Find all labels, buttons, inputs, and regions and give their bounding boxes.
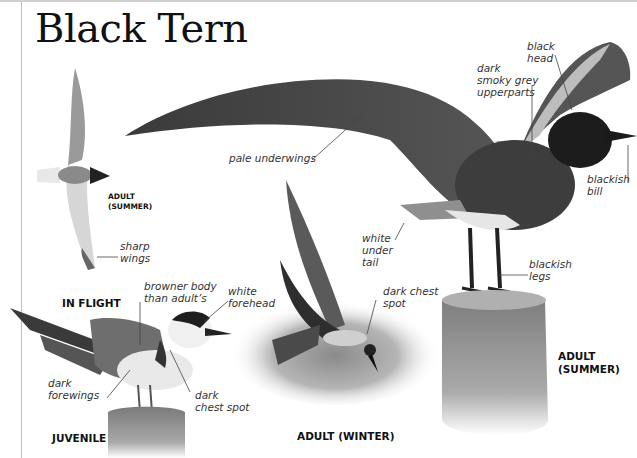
annotation-line: upperparts	[477, 86, 538, 98]
annotation-dark-forewings: dark forewings	[48, 377, 99, 401]
annotation-line: than adult’s	[144, 292, 217, 304]
annotation-line: chest spot	[195, 401, 250, 413]
juvenile-caption: JUVENILE	[52, 432, 106, 445]
caption-line: (SUMMER)	[108, 202, 152, 212]
annotation-line: forewings	[48, 389, 99, 401]
annotation-dark-smoky-grey: dark smoky grey upperparts	[477, 62, 538, 98]
annotation-line: legs	[529, 270, 572, 282]
annotation-black-head: black head	[527, 40, 555, 64]
annotation-line: tail	[362, 256, 393, 268]
adult-winter-caption: ADULT (WINTER)	[297, 430, 394, 443]
juvenile-tern	[10, 308, 232, 458]
annotation-line: smoky grey	[477, 74, 538, 86]
annotation-line: sharp	[120, 240, 150, 252]
caption-line: (SUMMER)	[558, 363, 620, 376]
annotation-line: white	[362, 232, 393, 244]
annotation-line: under	[362, 244, 393, 256]
annotation-sharp-wings: sharp wings	[120, 240, 150, 264]
annotation-line: bill	[587, 185, 630, 197]
in-flight-age-caption: ADULT (SUMMER)	[108, 192, 152, 212]
annotation-line: forehead	[228, 297, 275, 309]
caption-line: ADULT	[108, 192, 152, 202]
annotation-pale-underwings: pale underwings	[229, 152, 316, 164]
annotation-blackish-legs: blackish legs	[529, 258, 572, 282]
annotation-line: wings	[120, 252, 150, 264]
field-guide-page: Black Tern	[0, 0, 637, 458]
annotation-winter-chest-spot: dark chest spot	[383, 285, 438, 309]
annotation-line: dark	[195, 389, 250, 401]
annotation-line: spot	[383, 297, 438, 309]
annotation-juvenile-chest-spot: dark chest spot	[195, 389, 250, 413]
annotation-line: dark	[48, 377, 99, 389]
annotation-white-under-tail: white under tail	[362, 232, 393, 268]
annotation-line: dark chest	[383, 285, 438, 297]
in-flight-tern	[37, 68, 110, 270]
annotation-line: browner body	[144, 280, 217, 292]
annotation-line: black	[527, 40, 555, 52]
adult-summer-caption: ADULT (SUMMER)	[558, 350, 620, 376]
annotation-blackish-bill: blackish bill	[587, 173, 630, 197]
caption-line: ADULT	[558, 350, 620, 363]
annotation-white-forehead: white forehead	[228, 285, 275, 309]
annotation-browner-body: browner body than adult’s	[144, 280, 217, 304]
annotation-line: head	[527, 52, 555, 64]
in-flight-caption: IN FLIGHT	[62, 297, 121, 310]
annotation-line: blackish	[587, 173, 630, 185]
annotation-line: blackish	[529, 258, 572, 270]
annotation-line: white	[228, 285, 275, 297]
